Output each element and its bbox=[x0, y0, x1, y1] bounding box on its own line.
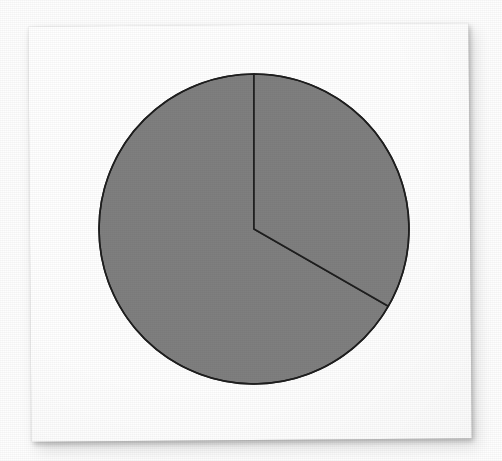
paper-card bbox=[28, 23, 471, 441]
figure-canvas bbox=[0, 0, 502, 461]
paper-texture bbox=[28, 23, 471, 441]
